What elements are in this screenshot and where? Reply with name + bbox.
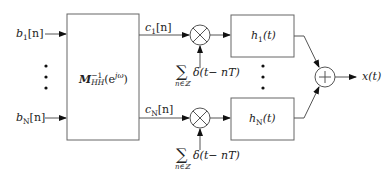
output-label-c1: c1[n] — [145, 22, 172, 36]
sum-symbol-N: ∑ — [176, 147, 187, 163]
input-label-b1: b1[n] — [16, 28, 44, 42]
sum-index-1: n∈ℤ — [175, 81, 190, 88]
input-label-bN: bN[n] — [16, 112, 45, 126]
adder — [315, 67, 335, 87]
output-label-cN: cN[n] — [145, 104, 173, 118]
h1-to-adder — [294, 36, 319, 67]
sum-symbol-1: ∑ — [176, 64, 187, 80]
filter-label-hN: hN(t) — [249, 113, 276, 127]
impulse-term-1: δ(t− nT) — [193, 67, 240, 78]
output-label-x: x(t) — [362, 71, 381, 82]
input-ellipsis — [44, 64, 47, 89]
sum-index-N: n∈ℤ — [175, 164, 190, 171]
multiplier-1 — [190, 25, 210, 45]
filter-ellipsis — [261, 64, 264, 89]
multiplier-N — [190, 108, 210, 128]
matrix-label: M−1HH(ejω) — [79, 72, 128, 86]
hN-to-adder — [294, 87, 319, 118]
filter-label-h1: h1(t) — [251, 30, 276, 44]
impulse-term-N: δ(t− nT) — [193, 150, 240, 161]
